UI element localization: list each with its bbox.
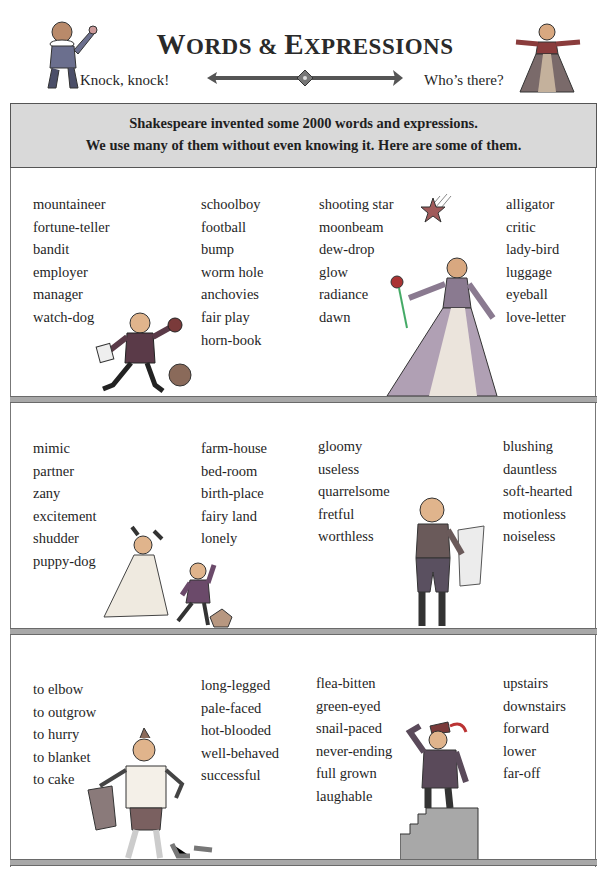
word: useless [318, 458, 390, 481]
word: bandit [33, 238, 110, 261]
word: quarrelsome [318, 480, 390, 503]
word: long-legged [201, 674, 279, 697]
word: lady-bird [506, 238, 566, 261]
word: pale-faced [201, 697, 279, 720]
word: puppy-dog [33, 550, 97, 573]
word: mountaineer [33, 193, 110, 216]
word: alligator [506, 193, 566, 216]
word: mimic [33, 437, 97, 460]
word: full grown [316, 762, 392, 785]
word: bump [201, 238, 263, 261]
word: radiance [319, 283, 394, 306]
word: forward [503, 717, 566, 740]
intro-box: Shakespeare invented some 2000 words and… [10, 103, 597, 168]
word: fair play [201, 306, 263, 329]
word: dawn [319, 306, 394, 329]
man-undressing-illustration [82, 728, 222, 860]
man-reading-scroll-illustration [400, 492, 490, 630]
word: excitement [33, 505, 97, 528]
word: partner [33, 460, 97, 483]
word: snail-paced [316, 717, 392, 740]
lady-with-flower-illustration [385, 178, 510, 398]
word: manager [33, 283, 110, 306]
word: anchovies [201, 283, 263, 306]
word: lower [503, 740, 566, 763]
word: eyeball [506, 283, 566, 306]
word: dauntless [503, 458, 572, 481]
title-initial-w: W [157, 28, 187, 60]
word: birth-place [201, 482, 267, 505]
word: moonbeam [319, 216, 394, 239]
word: laughable [316, 785, 392, 808]
title-initial-e: E [284, 28, 304, 60]
intro-line-2: We use many of them without even knowing… [11, 134, 596, 156]
word: soft-hearted [503, 480, 572, 503]
word: dew-drop [319, 238, 394, 261]
word: blushing [503, 435, 572, 458]
woman-in-gown-illustration [510, 20, 585, 95]
section-divider-2 [10, 628, 597, 635]
running-schoolboy-illustration [95, 305, 200, 397]
word: worthless [318, 525, 390, 548]
section-1-column-3: shooting star moonbeam dew-drop glow rad… [319, 193, 394, 329]
section-3-column-3: flea-bitten green-eyed snail-paced never… [316, 672, 392, 808]
word: fairy land [201, 505, 267, 528]
word: upstairs [503, 672, 566, 695]
word: schoolboy [201, 193, 263, 216]
word: fretful [318, 503, 390, 526]
word: love-letter [506, 306, 566, 329]
dancing-couple-illustration [98, 525, 238, 630]
word: employer [33, 261, 110, 284]
whos-there-caption: Who’s there? [424, 72, 504, 89]
word: gloomy [318, 435, 390, 458]
word: green-eyed [316, 695, 392, 718]
ornamental-divider-icon [205, 66, 405, 90]
word: noiseless [503, 525, 572, 548]
man-on-stairs-illustration [400, 718, 485, 860]
knock-knock-caption: Knock, knock! [80, 72, 169, 89]
word: shooting star [319, 193, 394, 216]
word: fortune-teller [33, 216, 110, 239]
word: luggage [506, 261, 566, 284]
section-2-column-3: gloomy useless quarrelsome fretful worth… [318, 435, 390, 548]
word: downstairs [503, 695, 566, 718]
word: shudder [33, 527, 97, 550]
section-3-column-4: upstairs downstairs forward lower far-of… [503, 672, 566, 785]
title-part-2: XPRESSIONS [304, 34, 453, 59]
section-2-column-4: blushing dauntless soft-hearted motionle… [503, 435, 572, 548]
word: motionless [503, 503, 572, 526]
intro-line-1: Shakespeare invented some 2000 words and… [11, 112, 596, 134]
section-divider-3 [10, 859, 597, 866]
word: zany [33, 482, 97, 505]
word: horn-book [201, 329, 263, 352]
word: football [201, 216, 263, 239]
word: critic [506, 216, 566, 239]
section-divider-1 [10, 396, 597, 403]
word: to elbow [33, 678, 96, 701]
word: farm-house [201, 437, 267, 460]
word: glow [319, 261, 394, 284]
word: never-ending [316, 740, 392, 763]
word: flea-bitten [316, 672, 392, 695]
section-1-column-4: alligator critic lady-bird luggage eyeba… [506, 193, 566, 329]
word: to outgrow [33, 701, 96, 724]
word: far-off [503, 762, 566, 785]
word: bed-room [201, 460, 267, 483]
section-1-column-2: schoolboy football bump worm hole anchov… [201, 193, 263, 351]
word: worm hole [201, 261, 263, 284]
section-2-column-1: mimic partner zany excitement shudder pu… [33, 437, 97, 573]
title-part-1: ORDS & [186, 34, 284, 59]
